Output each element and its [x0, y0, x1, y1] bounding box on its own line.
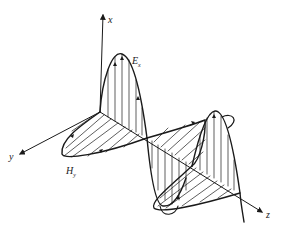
h-field-hatch-3 — [158, 168, 231, 208]
z-axis-label: z — [266, 210, 270, 220]
e-field-label: Ex — [132, 56, 141, 68]
h-field-curve-1 — [62, 112, 147, 156]
x-axis-label: x — [108, 15, 112, 25]
h-field-label: Hy — [66, 166, 76, 178]
x-axis-label-text: x — [108, 14, 112, 25]
em-wave-diagram — [0, 0, 287, 233]
h-field-subscript: y — [73, 172, 76, 178]
e-field-subscript: x — [138, 62, 141, 68]
y-axis-label: y — [9, 152, 13, 162]
e-field-curve-2 — [147, 138, 186, 206]
z-axis-label-text: z — [266, 209, 270, 220]
y-axis — [20, 112, 100, 154]
h-field-curl-top — [222, 115, 234, 128]
h-field-curve-3 — [153, 166, 240, 210]
y-axis-label-text: y — [9, 151, 13, 162]
